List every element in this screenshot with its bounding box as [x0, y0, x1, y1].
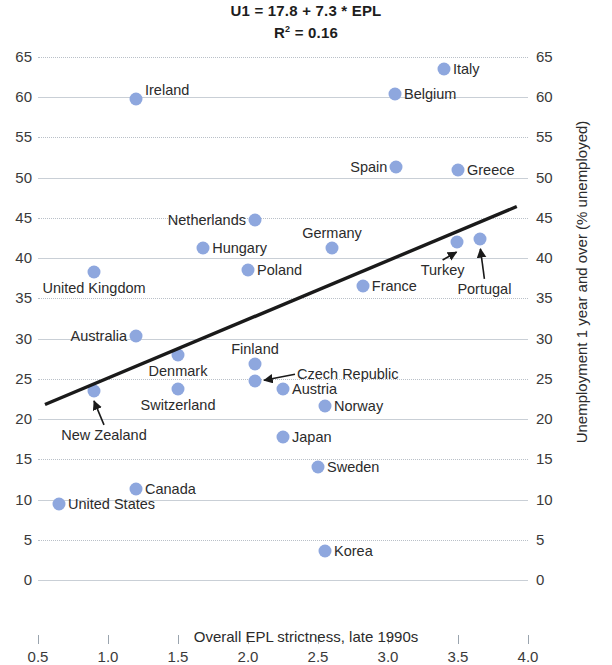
point-label: Sweden — [327, 460, 379, 475]
point-label: Ireland — [145, 82, 189, 97]
gridline — [38, 57, 528, 58]
gridline — [38, 178, 528, 179]
gridline — [38, 258, 528, 259]
data-point[interactable] — [242, 264, 255, 277]
data-point[interactable] — [390, 161, 403, 174]
point-label: Denmark — [149, 363, 208, 378]
point-label: Finland — [231, 342, 279, 357]
y-tick-label: 60 — [536, 89, 568, 104]
data-point[interactable] — [326, 241, 339, 254]
y-tick-label: 20 — [536, 411, 568, 426]
data-point[interactable] — [312, 461, 325, 474]
x-tick-label: 1.0 — [98, 649, 119, 664]
data-point[interactable] — [53, 498, 66, 511]
trend-line-segment — [45, 207, 517, 405]
y-tick-label: 55 — [536, 129, 568, 144]
gridline — [38, 580, 528, 581]
point-label: Netherlands — [168, 212, 246, 227]
callout-arrow — [480, 249, 484, 279]
point-label: Germany — [302, 225, 362, 240]
data-point[interactable] — [249, 213, 262, 226]
y-tick-label: 25 — [2, 371, 32, 386]
point-label: United Kingdom — [42, 280, 145, 295]
point-label: Poland — [257, 263, 302, 278]
x-tick-label: 0.5 — [28, 649, 49, 664]
point-label: Italy — [453, 62, 480, 77]
data-point[interactable] — [474, 232, 487, 245]
y-tick-label: 60 — [2, 89, 32, 104]
chart-title-equation: U1 = 17.8 + 7.3 * EPL — [0, 2, 612, 20]
y-tick-label: 45 — [536, 210, 568, 225]
y-axis-title: Unemployment 1 year and over (% unemploy… — [574, 0, 612, 612]
data-point[interactable] — [88, 265, 101, 278]
y-tick-label: 15 — [536, 451, 568, 466]
data-point[interactable] — [277, 430, 290, 443]
y-tick-label: 30 — [536, 331, 568, 346]
data-point[interactable] — [249, 358, 262, 371]
gridline — [38, 218, 528, 219]
callout-arrow — [94, 401, 104, 425]
data-point[interactable] — [130, 330, 143, 343]
y-tick-label: 40 — [2, 250, 32, 265]
data-point[interactable] — [130, 92, 143, 105]
y-tick-label: 5 — [536, 532, 568, 547]
y-tick-label: 0 — [2, 572, 32, 587]
y-tick-label: 50 — [2, 170, 32, 185]
data-point[interactable] — [277, 382, 290, 395]
chart-title-rsquared: R2 = 0.16 — [0, 20, 612, 42]
r-symbol: R — [274, 24, 285, 41]
y-tick-label: 15 — [2, 451, 32, 466]
data-point[interactable] — [450, 236, 463, 249]
x-tick-label: 2.5 — [308, 649, 329, 664]
point-label: Greece — [467, 162, 515, 177]
data-point[interactable] — [249, 375, 262, 388]
x-tick-label: 3.5 — [448, 649, 469, 664]
data-point[interactable] — [438, 63, 451, 76]
gridline — [38, 298, 528, 299]
data-point[interactable] — [356, 279, 369, 292]
y-tick-label: 40 — [536, 250, 568, 265]
y-tick-label: 45 — [2, 210, 32, 225]
point-label: Australia — [71, 329, 127, 344]
y-tick-label: 35 — [536, 290, 568, 305]
chart-title-block: U1 = 17.8 + 7.3 * EPL R2 = 0.16 — [0, 2, 612, 42]
x-tick-label: 1.5 — [168, 649, 189, 664]
x-tick-label: 2.0 — [238, 649, 259, 664]
data-point[interactable] — [197, 242, 210, 255]
y-tick-label: 10 — [2, 492, 32, 507]
point-label: Switzerland — [141, 397, 216, 412]
point-label: New Zealand — [61, 427, 146, 442]
data-point[interactable] — [389, 88, 402, 101]
x-tick-label: 4.0 — [518, 649, 539, 664]
y-tick-label: 10 — [536, 492, 568, 507]
data-point[interactable] — [452, 163, 465, 176]
data-point[interactable] — [319, 545, 332, 558]
y-tick-label: 0 — [536, 572, 568, 587]
r-value: = 0.16 — [290, 24, 338, 41]
x-axis-title: Overall EPL strictness, late 1990s — [0, 628, 612, 645]
point-label: Japan — [292, 429, 332, 444]
point-label: United States — [68, 497, 155, 512]
point-label: Hungary — [212, 241, 267, 256]
gridline — [38, 459, 528, 460]
gridline — [38, 419, 528, 420]
plot-area: ItalyBelgiumIrelandSpainGreeceNetherland… — [38, 57, 528, 580]
x-tick-label: 3.0 — [378, 649, 399, 664]
point-label: Portugal — [457, 281, 511, 296]
data-point[interactable] — [130, 483, 143, 496]
data-point[interactable] — [319, 400, 332, 413]
y-tick-label: 25 — [536, 371, 568, 386]
point-label: Norway — [334, 399, 383, 414]
y-tick-label: 20 — [2, 411, 32, 426]
y-tick-label: 65 — [2, 49, 32, 64]
y-tick-label: 5 — [2, 532, 32, 547]
y-tick-label: 50 — [536, 170, 568, 185]
data-point[interactable] — [172, 382, 185, 395]
y-tick-label: 55 — [2, 129, 32, 144]
point-label: Canada — [145, 482, 196, 497]
point-label: Turkey — [421, 263, 465, 278]
data-point[interactable] — [88, 384, 101, 397]
data-point[interactable] — [172, 348, 185, 361]
point-label: France — [372, 278, 417, 293]
